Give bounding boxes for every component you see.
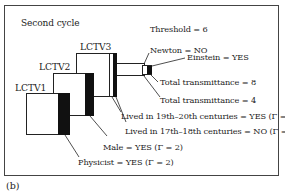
lived-17th-18th-annotation: Lived in 17th–18th centuries = NO (Γ = 1…: [125, 127, 285, 135]
physicist-annotation: Physicist = YES (Γ = 2): [78, 158, 174, 166]
figure-title: Second cycle: [21, 19, 80, 28]
lived-19th-20th-annotation: Lived in 19th–20th centuries = YES (Γ = …: [121, 112, 285, 120]
subfigure-label: (b): [6, 180, 20, 191]
total-transmittance-8: Total transmittance = 8: [160, 78, 256, 86]
male-annotation: Male = YES (Γ = 2): [103, 143, 183, 151]
lctv1-black-bar: [58, 93, 70, 135]
lctv2-label: LCTV2: [39, 62, 70, 71]
lctv2-black-bar: [85, 73, 94, 116]
total-transmittance-4: Total transmittance = 4: [160, 96, 256, 104]
lctv3-black-bar: [113, 53, 117, 97]
lctv1-label: LCTV1: [15, 83, 46, 92]
einstein-annotation: Einstein = YES: [187, 53, 249, 61]
lctv3-label: LCTV3: [80, 42, 111, 51]
threshold-label: Threshold = 6: [150, 25, 208, 33]
detector-black: [147, 66, 152, 74]
optical-tube: [115, 63, 145, 76]
